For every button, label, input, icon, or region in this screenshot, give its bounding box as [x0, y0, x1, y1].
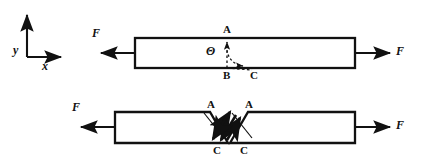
bottom-right-piece-a-label: A: [245, 99, 253, 110]
bottom-force-right-label: F: [396, 119, 404, 131]
top-point-a-label: A: [223, 24, 231, 35]
top-point-b-label: B: [223, 70, 230, 81]
bottom-left-piece-c-label: C: [213, 145, 221, 156]
top-bar-body: [135, 38, 355, 68]
bottom-left-piece-a-label: A: [207, 99, 215, 110]
angle-theta-label: Θ: [206, 45, 215, 57]
figure-container: y x F F A B C Θ F F A C A C: [0, 0, 432, 166]
bottom-left-piece-body: [115, 112, 228, 143]
y-axis-label: y: [13, 44, 18, 56]
coordinate-axes: [27, 15, 61, 57]
x-axis-label: x: [42, 60, 48, 72]
bottom-bar-group: [81, 112, 390, 143]
top-point-c-label: C: [250, 70, 258, 81]
diagram-canvas: [0, 0, 432, 166]
top-force-left-label: F: [92, 27, 100, 39]
top-bar-group: [101, 38, 390, 70]
bottom-right-piece-body: [230, 112, 355, 143]
bottom-right-piece-c-label: C: [240, 145, 248, 156]
top-force-right-label: F: [396, 45, 404, 57]
bottom-force-left-label: F: [72, 101, 80, 113]
